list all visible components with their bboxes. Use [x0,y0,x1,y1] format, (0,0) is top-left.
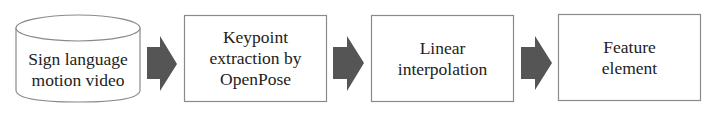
cylinder-top-ellipse [16,15,140,41]
node-label-feature-element: Feature element [558,14,701,101]
node-label-source: Sign language motion video [16,44,140,96]
node-label-keypoint-extraction: Keypoint extraction by OpenPose [184,15,327,102]
node-label-line: extraction by [210,48,302,69]
arrow-right-icon [147,36,177,91]
node-label-line: Linear [420,38,466,59]
node-label-line: element [602,58,657,79]
node-label-line: OpenPose [220,69,291,90]
node-label-line: interpolation [398,59,487,80]
node-label-line: motion video [32,70,125,91]
arrow-right-icon [333,36,364,91]
node-label-line: Feature [603,37,655,58]
node-label-line: Sign language [28,49,128,70]
node-label-line: Keypoint [223,27,288,48]
arrow-right-icon [521,36,552,90]
node-label-linear-interpolation: Linear interpolation [371,15,514,102]
